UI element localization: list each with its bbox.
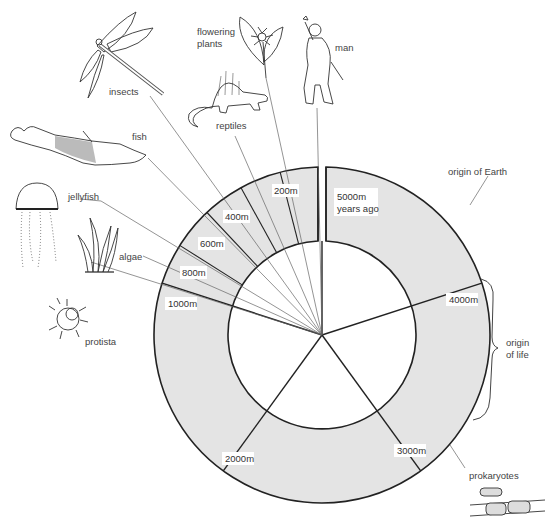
flowering-plants-label-1: flowering (197, 26, 235, 37)
label-200m: 200m (274, 185, 298, 196)
leader-prokaryotes (450, 445, 465, 468)
protista-label: protista (85, 336, 117, 347)
jellyfish-icon (16, 183, 58, 268)
jellyfish-label: jellyfish (67, 191, 99, 202)
man-label: man (335, 42, 353, 53)
leader-origin-of-earth (470, 176, 488, 205)
label-2000m: 2000m (225, 453, 254, 464)
origin-of-earth-label: origin of Earth (448, 166, 507, 177)
label-4000m: 4000m (449, 294, 478, 305)
algae-label: algae (119, 251, 142, 262)
label-800m: 800m (182, 267, 206, 278)
man-icon (303, 16, 343, 104)
reptiles-label: reptiles (216, 120, 247, 131)
label-600m: 600m (200, 238, 224, 249)
label-1000m: 1000m (168, 298, 197, 309)
label-3000m: 3000m (397, 445, 426, 456)
fish-label: fish (132, 131, 147, 142)
label-5000m: 5000m (337, 191, 366, 202)
protista-icon (49, 298, 88, 339)
flowering-plants-label-2: plants (197, 38, 223, 49)
insects-label: insects (109, 86, 139, 97)
reptiles-icon (188, 71, 267, 127)
origin-of-life-label-2: of life (506, 349, 529, 360)
flowering-plants-icon (240, 17, 284, 78)
evolution-clock-diagram: 5000m years ago 4000m 3000m 2000m 1000m … (0, 0, 546, 523)
fish-icon (11, 127, 146, 165)
prokaryotes-icon (470, 488, 545, 516)
label-years-ago: years ago (337, 203, 379, 214)
origin-of-life-label-1: origin (506, 337, 529, 348)
prokaryotes-label: prokaryotes (469, 470, 519, 481)
label-400m: 400m (225, 211, 249, 222)
